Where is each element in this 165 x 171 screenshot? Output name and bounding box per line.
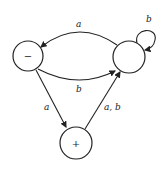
state-final-label: + [72,138,80,149]
edge-final-to-middle [85,72,120,129]
state-final: + [60,127,92,159]
edge-middle-to-start [41,32,117,47]
edge-start-to-final [36,70,66,127]
automaton-diagram: a b b a a, b − + [0,0,165,171]
edge-label-a-left: a [44,102,49,112]
edge-label-b-bottom: b [76,84,82,94]
edge-start-to-middle [38,69,115,80]
state-middle [113,41,145,73]
edge-label-ab: a, b [104,102,121,112]
state-start: − [13,41,43,71]
state-start-label: − [24,51,32,62]
edge-label-b-loop: b [146,14,152,24]
edge-label-a-top: a [76,19,81,29]
